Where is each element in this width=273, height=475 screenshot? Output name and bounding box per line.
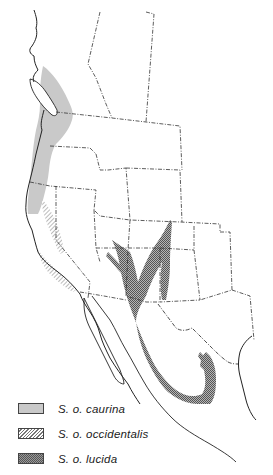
- legend-label: S. o. lucida: [58, 453, 117, 465]
- occidentalis-swatch-icon: [18, 428, 44, 439]
- legend-item-occidentalis: S. o. occidentalis: [18, 421, 258, 446]
- legend-label: S. o. occidentalis: [58, 428, 149, 440]
- legend: S. o. caurina S. o. occidentalis S. o. l…: [18, 396, 258, 471]
- legend-item-lucida: S. o. lucida: [18, 446, 258, 471]
- lucida-swatch-icon: [18, 453, 44, 464]
- legend-label: S. o. caurina: [58, 403, 125, 415]
- baja-peninsula: [84, 298, 124, 384]
- legend-item-caurina: S. o. caurina: [18, 396, 258, 421]
- caurina-swatch-icon: [18, 403, 44, 414]
- rio-grande: [158, 304, 238, 364]
